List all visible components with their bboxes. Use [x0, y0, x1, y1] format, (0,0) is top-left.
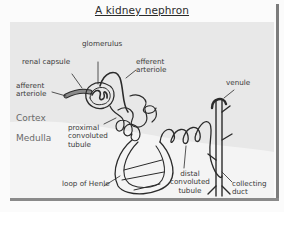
label-loop-of-henle: loop of Henle — [62, 180, 110, 188]
zone-label-cortex: Cortex — [16, 113, 46, 123]
label-renal-capsule: renal capsule — [22, 58, 70, 66]
zone-label-medulla: Medulla — [16, 133, 51, 143]
label-glomerulus: glomerulus — [82, 40, 122, 48]
label-efferent-arteriole: efferentarteriole — [136, 58, 166, 75]
label-distal-convoluted-tubule: distalconvolutedtubule — [170, 170, 210, 195]
label-venule: venule — [226, 79, 250, 87]
label-proximal-convoluted-tubule: proximalconvolutedtubule — [68, 124, 108, 149]
label-afferent-arteriole: afferentarteriole — [16, 82, 46, 99]
label-collecting-duct: collectingduct — [232, 180, 267, 197]
